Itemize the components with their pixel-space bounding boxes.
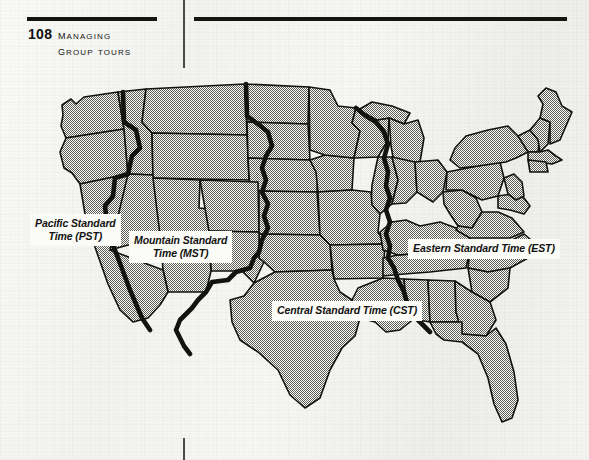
state-oklahoma — [259, 234, 332, 272]
header-rule-right — [194, 17, 567, 21]
state-connecticut — [528, 160, 548, 172]
state-montana — [142, 84, 247, 135]
state-colorado — [200, 180, 259, 232]
state-south-dakota — [247, 122, 310, 160]
state-texas — [230, 270, 360, 408]
page-number: 108 — [28, 26, 52, 42]
state-wyoming — [152, 133, 249, 180]
column-rule-top — [183, 0, 185, 68]
header-rule-left — [27, 17, 157, 21]
zone-label-pacific: Pacific Standard Time (PST) — [31, 215, 120, 245]
running-head-line-2: Group Tours — [58, 43, 131, 59]
zone-label-mountain: Mountain Standard Time (MST) — [130, 232, 231, 262]
state-north-dakota — [245, 84, 309, 124]
column-rule-bottom — [183, 438, 185, 460]
zone-label-eastern-line-1: Eastern Standard Time (EST) — [413, 242, 555, 255]
zone-label-central-line-1: Central Standard Time (CST) — [277, 304, 417, 317]
zone-label-mountain-line-2: Time (MST) — [134, 247, 227, 260]
state-arkansas — [330, 244, 385, 279]
state-new-york — [450, 126, 530, 168]
running-head: Managing Group Tours — [58, 27, 131, 59]
zone-label-mountain-line-1: Mountain Standard — [134, 234, 227, 247]
zone-label-pacific-line-2: Time (PST) — [35, 230, 116, 243]
zone-label-central: Central Standard Time (CST) — [273, 302, 421, 320]
state-florida — [430, 322, 518, 422]
zone-label-eastern: Eastern Standard Time (EST) — [409, 240, 559, 258]
zone-label-pacific-line-1: Pacific Standard — [35, 217, 116, 230]
state-ohio — [415, 160, 447, 202]
running-head-line-1: Managing — [58, 27, 131, 43]
